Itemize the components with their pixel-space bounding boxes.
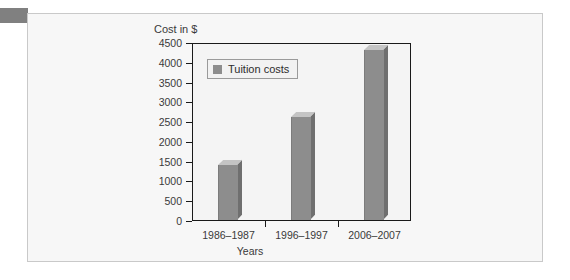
y-axis-tick-label: 500 (138, 195, 182, 207)
y-axis-tick-label: 3000 (138, 96, 182, 108)
x-axis-title-text: Years (237, 245, 263, 257)
legend-swatch-icon (213, 65, 222, 74)
legend-label: Tuition costs (228, 63, 289, 75)
figure-card: Cost in $ 050010001500200025003000350040… (27, 13, 543, 262)
bar (218, 165, 237, 220)
page-corner-tab (0, 8, 28, 23)
y-axis-tick (186, 181, 192, 182)
y-axis-tick (186, 43, 192, 44)
chart-legend: Tuition costs (207, 59, 298, 79)
x-axis-tick (338, 221, 339, 227)
bar (291, 117, 310, 220)
y-axis-tick-label: 3500 (138, 77, 182, 89)
bar (364, 50, 383, 220)
x-axis-tick-label: 1996–1997 (275, 229, 328, 241)
y-axis-tick (186, 102, 192, 103)
x-axis-tick (265, 221, 266, 227)
y-axis-tick (186, 142, 192, 143)
y-axis-tick-label: 0 (138, 215, 182, 227)
y-axis-tick (186, 122, 192, 123)
y-axis-tick (186, 83, 192, 84)
x-axis-title: Years (28, 245, 544, 257)
x-axis-tick-label: 1986–1987 (202, 229, 255, 241)
y-axis-tick (186, 63, 192, 64)
y-axis-tick-label: 2500 (138, 116, 182, 128)
bar-front-face (364, 50, 384, 220)
y-axis-tick (186, 162, 192, 163)
y-axis-tick (186, 201, 192, 202)
y-axis-tick-label: 2000 (138, 136, 182, 148)
bar-chart: Cost in $ 050010001500200025003000350040… (28, 14, 544, 263)
y-axis-tick-label: 1000 (138, 175, 182, 187)
y-axis-tick (186, 221, 192, 222)
bar-front-face (291, 117, 311, 220)
bar-front-face (218, 165, 238, 220)
y-axis-tick-label: 4000 (138, 57, 182, 69)
y-axis-tick-label: 1500 (138, 156, 182, 168)
x-axis-tick-label: 2006–2007 (348, 229, 401, 241)
y-axis-tick-label: 4500 (138, 37, 182, 49)
y-axis-labels: 050010001500200025003000350040004500 (132, 14, 182, 263)
bar-top-face (218, 160, 242, 165)
